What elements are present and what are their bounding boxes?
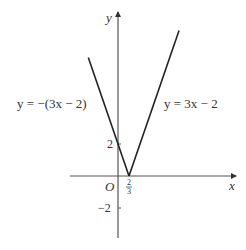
y-tick-label-neg2: −2	[98, 201, 111, 215]
fraction-numerator: 2	[127, 178, 131, 187]
left-branch-line	[88, 58, 129, 176]
y-tick-label-2: 2	[107, 137, 113, 151]
fraction-denominator: 3	[127, 187, 131, 196]
y-axis-label: y	[104, 10, 112, 25]
origin-label: O	[105, 179, 115, 194]
absolute-value-graph: y x O 2 −2 2 3 y = −(3x − 2) y = 3x − 2	[0, 0, 246, 250]
x-tick-label-two-thirds: 2 3	[126, 178, 132, 196]
right-branch-equation-label: y = 3x − 2	[164, 96, 218, 111]
x-axis-label: x	[228, 178, 235, 193]
left-branch-equation-label: y = −(3x − 2)	[17, 96, 87, 111]
